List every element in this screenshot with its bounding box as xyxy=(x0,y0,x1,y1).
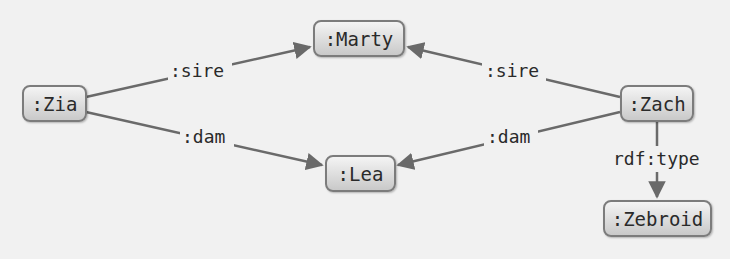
node-label: :Lea xyxy=(338,163,384,185)
node-label: :Marty xyxy=(325,28,394,50)
edge-zia-sire-marty: :sire xyxy=(86,47,310,97)
node-zia[interactable]: :Zia xyxy=(22,85,87,122)
node-label: :Zach xyxy=(628,93,685,115)
node-label: :Zia xyxy=(32,93,78,115)
edge-zach-dam-lea: :dam xyxy=(398,112,620,165)
edge-label-dam: :dam xyxy=(487,126,530,147)
edge-zia-dam-lea: :dam xyxy=(86,112,322,165)
edge-label-dam: :dam xyxy=(182,126,225,147)
edge-label-sire: :sire xyxy=(170,60,224,81)
edge-zach-sire-marty: :sire xyxy=(408,47,620,97)
edge-zach-type-zebroid: rdf:type xyxy=(612,122,704,197)
node-label: :Zebroid xyxy=(612,208,704,230)
edge-label-rdf-type: rdf:type xyxy=(613,148,700,169)
rdf-graph-diagram: :sire :sire :dam :dam rdf:type :Marty xyxy=(0,0,730,259)
edge-label-sire: :sire xyxy=(485,60,539,81)
node-zebroid[interactable]: :Zebroid xyxy=(603,200,712,237)
node-lea[interactable]: :Lea xyxy=(325,155,396,192)
node-marty[interactable]: :Marty xyxy=(313,20,405,57)
node-zach[interactable]: :Zach xyxy=(620,85,694,122)
